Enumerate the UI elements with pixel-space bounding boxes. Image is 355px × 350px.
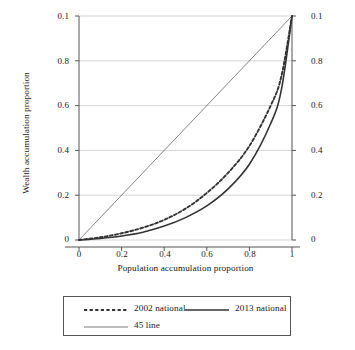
chart-legend: 2002 national 2013 national 45 line [63, 296, 291, 336]
legend-label-2013-national: 2013 national [235, 303, 287, 313]
legend-row-1: 2002 national 2013 national [64, 301, 292, 315]
plot-area-wrapper: Wealth accumulation proportion Populatio… [0, 0, 355, 292]
legend-entry-45-line: 45 line [84, 318, 160, 332]
legend-label-45-line: 45 line [134, 320, 160, 330]
legend-label-2002-national: 2002 national [134, 303, 186, 313]
legend-row-2: 45 line [64, 318, 292, 332]
chart-plot-canvas [0, 0, 355, 292]
legend-entry-2013-national: 2013 national [185, 301, 287, 315]
lorenz-curve-figure: Wealth accumulation proportion Populatio… [0, 0, 355, 350]
legend-entry-2002-national: 2002 national [84, 301, 186, 315]
